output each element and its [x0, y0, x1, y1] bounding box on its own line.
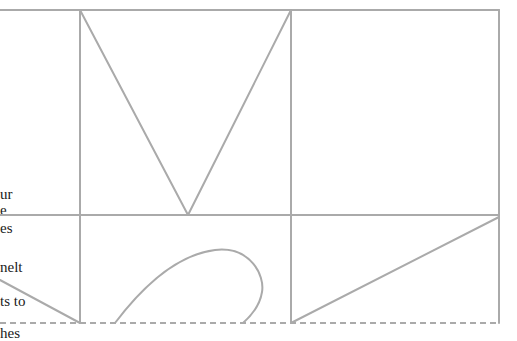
- bottom-right-diagonal: [291, 217, 499, 323]
- bottom-left-diagonal: [0, 280, 80, 323]
- v-shape: [80, 10, 291, 215]
- loop-curve: [115, 250, 262, 323]
